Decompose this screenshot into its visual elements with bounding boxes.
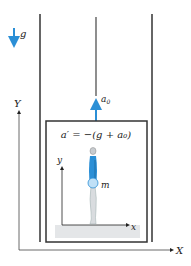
center-of-mass-icon bbox=[88, 178, 98, 188]
mass-label: m bbox=[101, 180, 110, 190]
outer-x-label: X bbox=[175, 245, 184, 256]
inner-x-label: x bbox=[131, 222, 136, 232]
elevator-diagram: g a0 a′ = −(g + a₀) y x m Y X bbox=[0, 0, 191, 266]
equation-label: a′ = −(g + a₀) bbox=[61, 129, 131, 140]
cable-accel-label: a0 bbox=[101, 94, 110, 105]
outer-y-label: Y bbox=[14, 98, 22, 109]
gravity-label: g bbox=[20, 28, 26, 39]
inner-y-label: y bbox=[56, 155, 63, 165]
cabin-floor bbox=[55, 225, 140, 238]
